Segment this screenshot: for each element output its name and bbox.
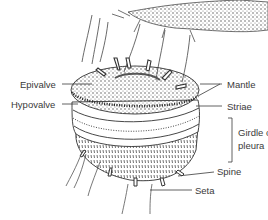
label-spine: Spine [217,166,241,177]
label-epivalve: Epivalve [20,79,56,90]
label-girdle-line1: Girdle or [238,127,268,138]
label-hypovalve: Hypovalve [11,99,55,110]
label-seta: Seta [195,185,215,196]
diatom-diagram: Epivalve Hypovalve Mantle Striae Girdle … [0,0,268,220]
label-mantle: Mantle [227,79,256,90]
label-girdle-line2: pleura [238,140,264,151]
epivalve-body [71,66,199,114]
label-striae: Striae [227,101,252,112]
